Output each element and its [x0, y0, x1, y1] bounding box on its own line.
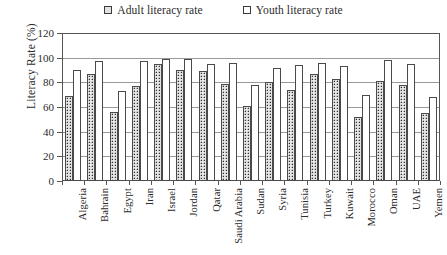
x-label-cell: Yemen	[418, 186, 440, 252]
x-axis-label-yemen: Yemen	[433, 188, 444, 218]
x-label-cell: Kuwait	[329, 186, 351, 252]
x-tick-mark	[173, 181, 174, 185]
x-tick-mark	[84, 181, 85, 185]
x-label-cell: Bahrain	[84, 186, 106, 252]
literacy-rate-bar-chart: Adult literacy rate Youth literacy rate …	[0, 0, 447, 255]
y-tick-label-20: 20	[43, 151, 54, 162]
x-tick-mark	[373, 181, 374, 185]
x-tick-mark	[106, 181, 107, 185]
empty-square-icon	[243, 6, 251, 14]
x-tick-mark	[307, 181, 308, 185]
x-axis-labels: AlgeriaBahrainEgyptIranIsraelJordanQatar…	[62, 186, 440, 252]
x-tick-mark	[195, 181, 196, 185]
x-label-cell: Egypt	[106, 186, 128, 252]
gridline-40	[63, 132, 439, 133]
legend-entry-adult: Adult literacy rate	[104, 4, 203, 16]
x-label-cell: Saudi Arabia	[218, 186, 240, 252]
x-tick-mark	[129, 181, 130, 185]
x-label-cell: Turkey	[307, 186, 329, 252]
x-label-cell: Israel	[151, 186, 173, 252]
x-tick-mark	[329, 181, 330, 185]
y-tick-label-40: 40	[43, 126, 54, 137]
plot-area	[62, 33, 440, 181]
gridline-60	[63, 107, 439, 108]
gridline-20	[63, 156, 439, 157]
x-tick-mark	[240, 181, 241, 185]
x-tick-mark	[262, 181, 263, 185]
x-tick-mark	[151, 181, 152, 185]
x-label-cell: Oman	[373, 186, 395, 252]
gridline-100	[63, 58, 439, 59]
x-tick-mark	[284, 181, 285, 185]
legend-label-adult: Adult literacy rate	[117, 4, 203, 16]
x-label-cell: Iran	[129, 186, 151, 252]
hatched-square-icon	[104, 6, 112, 14]
x-label-cell: Algeria	[62, 186, 84, 252]
x-label-cell: Qatar	[195, 186, 217, 252]
x-label-cell: Syria	[262, 186, 284, 252]
x-tick-mark	[440, 181, 441, 185]
legend-label-youth: Youth literacy rate	[256, 4, 343, 16]
y-tick-label-0: 0	[49, 176, 55, 187]
x-tick-mark	[396, 181, 397, 185]
x-tick-mark	[418, 181, 419, 185]
y-tick-label-100: 100	[38, 52, 55, 63]
legend-entry-youth: Youth literacy rate	[243, 4, 343, 16]
y-tick-label-60: 60	[43, 102, 54, 113]
x-tick-mark	[218, 181, 219, 185]
x-label-cell: Jordan	[173, 186, 195, 252]
chart-legend: Adult literacy rate Youth literacy rate	[0, 4, 447, 16]
x-tick-mark	[351, 181, 352, 185]
x-label-cell: Tunisia	[284, 186, 306, 252]
x-label-cell: UAE	[396, 186, 418, 252]
x-label-cell: Sudan	[240, 186, 262, 252]
y-axis-ticks: 020406080100120	[0, 33, 62, 181]
y-tick-label-80: 80	[43, 77, 54, 88]
y-tick-label-120: 120	[38, 28, 55, 39]
x-tick-mark	[62, 181, 63, 185]
gridline-80	[63, 82, 439, 83]
x-label-cell: Morocco	[351, 186, 373, 252]
